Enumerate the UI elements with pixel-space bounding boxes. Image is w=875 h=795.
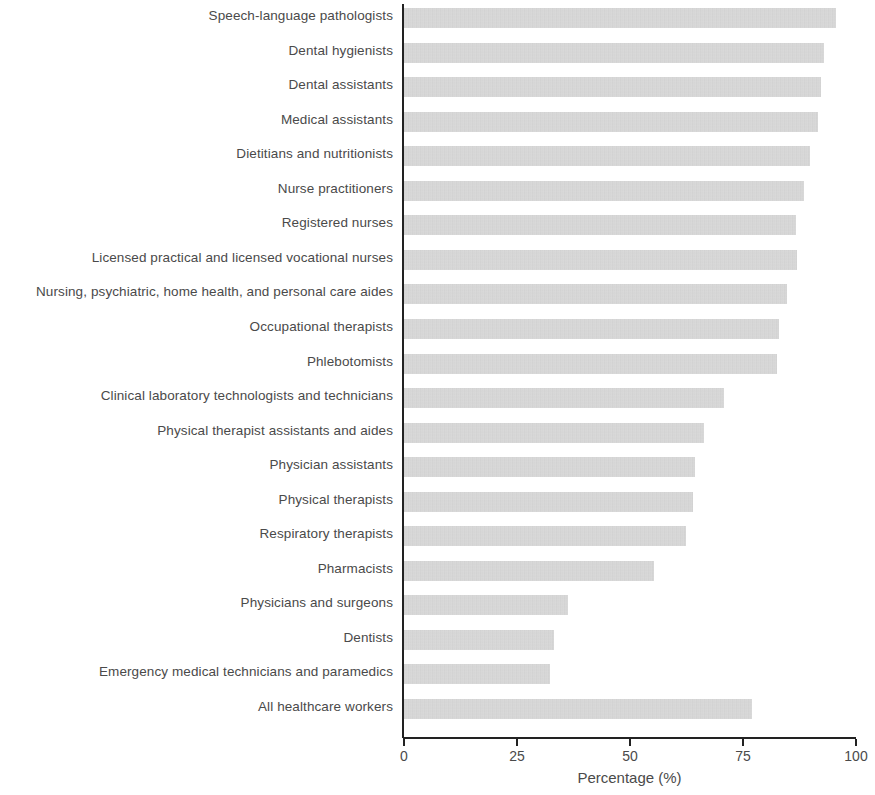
- x-axis-tick-label: 25: [487, 748, 547, 764]
- category-label: Physicians and surgeons: [0, 594, 393, 612]
- category-label: Nurse practitioners: [0, 180, 393, 198]
- bar-row: Dental hygienists: [0, 39, 875, 74]
- category-label: Respiratory therapists: [0, 525, 393, 543]
- category-label: Nursing, psychiatric, home health, and p…: [0, 283, 393, 301]
- bar-row: All healthcare workers: [0, 695, 875, 730]
- category-label: All healthcare workers: [0, 698, 393, 716]
- x-axis-tick: [516, 739, 518, 746]
- category-label: Occupational therapists: [0, 318, 393, 336]
- bar: [404, 457, 695, 477]
- bar-row: Dentists: [0, 626, 875, 661]
- category-label: Physician assistants: [0, 456, 393, 474]
- bar-row: Licensed practical and licensed vocation…: [0, 246, 875, 281]
- bar-row: Phlebotomists: [0, 350, 875, 385]
- bar: [404, 526, 686, 546]
- category-label: Emergency medical technicians and parame…: [0, 663, 393, 681]
- bar-row: Nurse practitioners: [0, 177, 875, 212]
- bar: [404, 215, 796, 235]
- bar: [404, 630, 554, 650]
- bar-row: Registered nurses: [0, 211, 875, 246]
- bar-row: Pharmacists: [0, 557, 875, 592]
- bar-row: Respiratory therapists: [0, 522, 875, 557]
- bar: [404, 181, 804, 201]
- category-label: Clinical laboratory technologists and te…: [0, 387, 393, 405]
- bar-row: Physical therapist assistants and aides: [0, 419, 875, 454]
- category-label: Pharmacists: [0, 560, 393, 578]
- bar: [404, 388, 724, 408]
- bar-row: Speech-language pathologists: [0, 4, 875, 39]
- x-axis-title: Percentage (%): [403, 769, 856, 786]
- bar-row: Physicians and surgeons: [0, 591, 875, 626]
- bar: [404, 423, 704, 443]
- x-axis-tick-label: 75: [713, 748, 773, 764]
- bar-row: Physical therapists: [0, 488, 875, 523]
- category-label: Speech-language pathologists: [0, 7, 393, 25]
- bar: [404, 77, 821, 97]
- x-axis-tick: [742, 739, 744, 746]
- category-label: Medical assistants: [0, 111, 393, 129]
- x-axis-tick-label: 100: [826, 748, 875, 764]
- bar: [404, 250, 797, 270]
- bar-row: Clinical laboratory technologists and te…: [0, 384, 875, 419]
- category-label: Dental hygienists: [0, 42, 393, 60]
- bar: [404, 595, 568, 615]
- bar-row: Dental assistants: [0, 73, 875, 108]
- bar: [404, 319, 779, 339]
- x-axis-tick: [403, 739, 405, 746]
- bar: [404, 699, 752, 719]
- x-axis-tick: [855, 739, 857, 746]
- bar: [404, 354, 777, 374]
- x-axis-tick-label: 0: [374, 748, 434, 764]
- bar-row: Medical assistants: [0, 108, 875, 143]
- category-label: Dental assistants: [0, 76, 393, 94]
- category-label: Registered nurses: [0, 214, 393, 232]
- bar: [404, 43, 824, 63]
- bar: [404, 561, 654, 581]
- bar: [404, 664, 550, 684]
- category-label: Dietitians and nutritionists: [0, 145, 393, 163]
- bar: [404, 146, 810, 166]
- category-label: Physical therapists: [0, 491, 393, 509]
- category-label: Phlebotomists: [0, 353, 393, 371]
- bar-row: Dietitians and nutritionists: [0, 142, 875, 177]
- bar: [404, 8, 836, 28]
- bar: [404, 284, 787, 304]
- x-axis-tick-label: 50: [600, 748, 660, 764]
- category-label: Physical therapist assistants and aides: [0, 422, 393, 440]
- category-label: Dentists: [0, 629, 393, 647]
- bar: [404, 112, 818, 132]
- bar: [404, 492, 693, 512]
- bar-row: Nursing, psychiatric, home health, and p…: [0, 280, 875, 315]
- bar-chart: Speech-language pathologistsDental hygie…: [0, 0, 875, 795]
- bar-row: Emergency medical technicians and parame…: [0, 660, 875, 695]
- bar-row: Occupational therapists: [0, 315, 875, 350]
- category-label: Licensed practical and licensed vocation…: [0, 249, 393, 267]
- plot-area: Speech-language pathologistsDental hygie…: [0, 0, 875, 795]
- bar-row: Physician assistants: [0, 453, 875, 488]
- x-axis-tick: [629, 739, 631, 746]
